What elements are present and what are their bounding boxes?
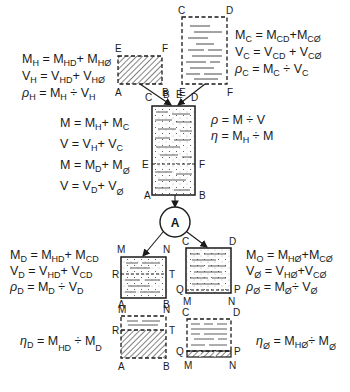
undissolved-fraction-box: M C D Q P M N (176, 296, 241, 371)
label-q: Q (176, 284, 184, 295)
label-r: R (112, 325, 119, 336)
label-m: M (183, 296, 191, 307)
total-volume-fraction-eq: V = VD+ VØ (60, 179, 124, 197)
dissolved-density-eq: ρD = MD ÷ VD (9, 280, 84, 296)
hydrate-box: E F A B (115, 43, 169, 98)
label-e: E (176, 89, 183, 100)
label-a: A (144, 190, 151, 201)
label-p: P (234, 346, 241, 357)
label-n: N (229, 360, 236, 371)
total-density-eq: ρ = M ÷ V (210, 113, 266, 127)
eta-dissolved-eq: ηD = MHD ÷ MD (20, 334, 102, 353)
label-p: P (234, 284, 241, 295)
arrow-to-undissolved (187, 232, 207, 247)
dissolved-fraction-box: M N R T A B (112, 304, 175, 372)
label-c: C (178, 5, 185, 16)
label-a: A (115, 87, 122, 98)
label-n: N (163, 304, 170, 315)
crystal-volume-eq: VC = VCD + VCØ (235, 45, 322, 61)
label-c: C (182, 236, 189, 247)
label-f: F (199, 159, 205, 170)
crystal-mass-eq: MC = MCD+MCØ (235, 28, 321, 44)
arrow-to-dissolved (143, 232, 163, 256)
mixture-column: E F A B (142, 106, 206, 201)
node-label: A (171, 216, 180, 230)
undissolved-box: C D Q P M N (176, 236, 241, 307)
separation-node: A (160, 207, 190, 237)
label-m: M (184, 360, 192, 371)
label-r: R (112, 269, 119, 280)
mixture-density-equations: ρ = M ÷ V η = MH ÷ M (210, 113, 273, 145)
label-q: Q (176, 346, 184, 357)
label-c: C (182, 307, 189, 318)
mixture-equations: M = MH+ MC V = VH+ VC M = MD+ MØ V = VD+… (60, 116, 130, 197)
label-n: N (228, 296, 235, 307)
label-d: D (233, 307, 240, 318)
label-n: N (163, 244, 170, 255)
label-t: T (169, 269, 175, 280)
dissolved-box: M N R T A B (112, 244, 175, 310)
merge-arrows: C B E D (140, 84, 205, 105)
undissolved-equations: MO = MHØ+MCØ VØ = VHØ+VCØ ρØ = MØ÷ VØ (245, 248, 333, 296)
dissolved-equations: MD = MHD+ MCD VD = VHD+ VCD ρD = MD ÷ VD (9, 248, 99, 296)
label-f: F (227, 87, 233, 98)
total-mass-fraction-eq: M = MD+ MØ (60, 158, 130, 176)
hydrate-volume-eq: VH = VHD+ VHØ (22, 69, 105, 85)
label-d: D (226, 5, 233, 16)
diagram-canvas: MH = MHD+ MHØ VH = VHD+ VHØ ρH = MH ÷ VH… (0, 0, 350, 392)
hydrate-equations: MH = MHD+ MHØ VH = VHD+ VHØ ρH = MH ÷ VH (21, 52, 111, 102)
label-e: E (115, 43, 122, 54)
label-m: M (117, 244, 125, 255)
label-f: F (162, 43, 168, 54)
eta-undissolved-eq: ηØ = MHØ÷ MØ (256, 334, 336, 352)
label-m: M (118, 304, 126, 315)
label-b: B (163, 361, 170, 372)
total-mass-eq: M = MH+ MC (60, 116, 130, 132)
label-e: E (142, 159, 149, 170)
total-volume-eq: V = VH+ VC (60, 137, 124, 153)
hydrate-density-eq: ρH = MH ÷ VH (21, 86, 96, 102)
label-b: B (163, 89, 170, 100)
label-b: B (199, 190, 206, 201)
label-d: D (229, 236, 236, 247)
undissolved-volume-eq: VØ = VHØ+VCØ (246, 264, 327, 280)
label-t: T (169, 325, 175, 336)
hydrate-fraction-eq: η = MH ÷ M (211, 129, 273, 145)
crystal-box: C D E F (178, 5, 233, 98)
hydrate-mass-eq: MH = MHD+ MHØ (22, 52, 111, 68)
undissolved-mass-eq: MO = MHØ+MCØ (246, 248, 333, 264)
dissolved-volume-eq: VD = VHD+ VCD (10, 264, 93, 280)
label-d: D (191, 92, 198, 103)
label-c: C (145, 92, 152, 103)
label-a: A (118, 361, 125, 372)
crystal-equations: MC = MCD+MCØ VC = VCD + VCØ ρC = MC ÷ VC (234, 28, 322, 78)
crystal-density-eq: ρC = MC ÷ VC (234, 62, 309, 78)
undissolved-density-eq: ρØ = MØ÷ VØ (245, 280, 318, 296)
dissolved-mass-eq: MD = MHD+ MCD (10, 248, 99, 264)
